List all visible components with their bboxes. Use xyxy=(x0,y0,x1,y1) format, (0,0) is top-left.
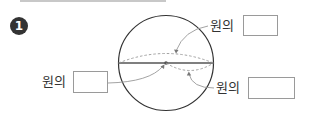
arrowhead-top xyxy=(174,50,179,54)
label-bottom-right: 원의 xyxy=(216,80,240,96)
label-left: 원의 xyxy=(42,74,66,90)
label-top: 원의 xyxy=(210,18,234,34)
answer-box-top[interactable] xyxy=(243,15,278,36)
arrowhead-bottom-right xyxy=(187,72,191,76)
answer-box-bottom-right[interactable] xyxy=(248,77,295,99)
leader-line-top xyxy=(176,26,208,51)
dashed-radius-curve xyxy=(166,63,214,71)
answer-box-left[interactable] xyxy=(73,71,108,93)
leader-line-left xyxy=(108,66,163,83)
